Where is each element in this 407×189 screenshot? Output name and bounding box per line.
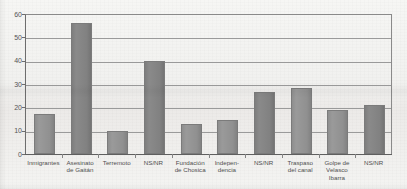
- x-tick-label: Indepen-dencia: [209, 159, 246, 174]
- x-tick-label-line: NS/NR: [245, 159, 282, 166]
- x-tick-separator: [245, 154, 246, 158]
- x-tick-label: Golpe deVelascoIbarra: [319, 159, 356, 181]
- x-tick-label-line: Indepen-: [209, 159, 246, 166]
- bar-chart-figure: 0102030405060 InmigrantesAsesinatode Gai…: [0, 0, 407, 189]
- bar: [34, 114, 55, 154]
- x-tick-label-line: Velasco: [319, 166, 356, 173]
- x-tick-separator: [282, 154, 283, 158]
- x-tick-label: Terremoto: [98, 159, 135, 166]
- x-tick-separator: [209, 154, 210, 158]
- x-tick-separator: [62, 154, 63, 158]
- bar: [291, 88, 312, 155]
- x-tick-label: NS/NR: [135, 159, 172, 166]
- chart-title: [0, 0, 407, 1]
- x-tick-label: NS/NR: [245, 159, 282, 166]
- y-tick-label: 0: [2, 151, 22, 158]
- x-tick-label-line: Ibarra: [319, 174, 356, 181]
- y-tick-label: 20: [2, 104, 22, 111]
- x-tick-separator: [135, 154, 136, 158]
- x-tick-label-line: del canal: [282, 166, 319, 173]
- bar: [71, 23, 92, 154]
- bar: [364, 105, 385, 154]
- x-tick-label-line: Inmigrantes: [25, 159, 62, 166]
- x-tick-label-line: Fundación: [172, 159, 209, 166]
- y-tick-label: 40: [2, 57, 22, 64]
- bar: [254, 92, 275, 154]
- x-tick-label-line: NS/NR: [135, 159, 172, 166]
- y-tick-label: 50: [2, 34, 22, 41]
- y-tick-label: 30: [2, 81, 22, 88]
- x-tick-label-line: Asesinato: [62, 159, 99, 166]
- x-tick-separator: [319, 154, 320, 158]
- y-axis: 0102030405060: [0, 0, 22, 189]
- x-tick-label: Traspasodel canal: [282, 159, 319, 174]
- bar: [107, 131, 128, 154]
- x-tick-separator: [355, 154, 356, 158]
- plot-area: [25, 14, 392, 154]
- x-tick-label-line: NS/NR: [355, 159, 392, 166]
- x-axis-labels: InmigrantesAsesinatode GaitánTerremotoNS…: [25, 159, 392, 189]
- bar: [217, 120, 238, 154]
- x-tick-label: Fundaciónde Chosica: [172, 159, 209, 174]
- bar: [327, 110, 348, 154]
- x-tick-label-line: de Gaitán: [62, 166, 99, 173]
- x-tick-label-line: dencia: [209, 166, 246, 173]
- y-tick-label: 60: [2, 11, 22, 18]
- bar: [144, 61, 165, 154]
- x-tick-label: NS/NR: [355, 159, 392, 166]
- x-tick-label-line: de Chosica: [172, 166, 209, 173]
- x-tick-label: Asesinatode Gaitán: [62, 159, 99, 174]
- bar: [181, 124, 202, 154]
- x-tick-label-line: Terremoto: [98, 159, 135, 166]
- x-tick-label: Inmigrantes: [25, 159, 62, 166]
- x-tick-separator: [98, 154, 99, 158]
- x-tick-label-line: Traspaso: [282, 159, 319, 166]
- x-tick-label-line: Golpe de: [319, 159, 356, 166]
- y-tick-label: 10: [2, 127, 22, 134]
- x-tick-separator: [172, 154, 173, 158]
